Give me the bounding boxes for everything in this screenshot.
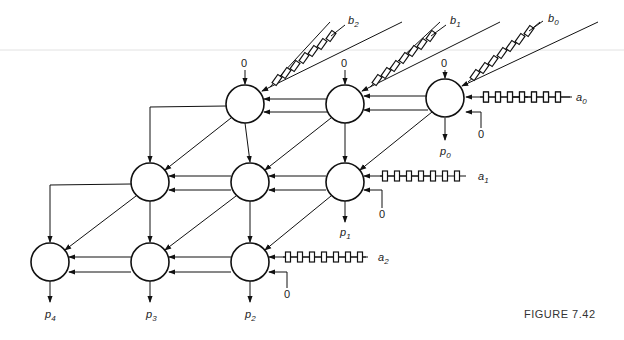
systolic-array-diagram: 0 0 0 0 0 0 b2 b1 b0 a0 a1 a2 p0 p1 p2 p…: [0, 0, 624, 340]
label-a1: a1: [478, 170, 489, 185]
cell-r2-c2: [31, 243, 69, 281]
a2-delay-line: [283, 252, 368, 262]
zero-top-c2: 0: [241, 57, 247, 69]
label-b2: b2: [348, 14, 359, 29]
zero-side-r2: 0: [284, 288, 290, 300]
cell-r0-c0: [426, 79, 464, 117]
label-p0: p0: [439, 145, 451, 160]
label-p1: p1: [339, 226, 351, 241]
zero-top-c1: 0: [341, 57, 347, 69]
zero-side-r0: 0: [478, 128, 484, 140]
b2-delay-line: [270, 22, 345, 87]
label-p3: p3: [145, 308, 157, 323]
a1-delay-line: [380, 171, 466, 181]
label-a0: a0: [576, 91, 587, 106]
b0-delay-line: [468, 21, 543, 82]
cell-r1-c0: [326, 163, 364, 201]
cell-r1-c1: [231, 163, 269, 201]
label-b0: b0: [548, 12, 559, 27]
zero-side-r1: 0: [379, 208, 385, 220]
figure-caption: FIGURE 7.42: [524, 308, 596, 320]
cell-r1-c2: [131, 163, 169, 201]
label-a2: a2: [378, 251, 389, 266]
cell-r2-c1: [131, 243, 169, 281]
cell-r2-c0: [231, 243, 269, 281]
label-p2: p2: [244, 308, 256, 323]
zero-top-c0: 0: [441, 57, 447, 69]
label-b1: b1: [450, 14, 461, 29]
label-p4: p4: [44, 308, 56, 323]
a0-line-tail: [480, 92, 572, 102]
cell-r0-c1: [326, 85, 364, 123]
cell-r0-c2: [226, 85, 264, 123]
